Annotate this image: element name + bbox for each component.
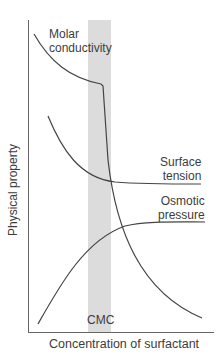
molar-conductivity-label: Molar conductivity xyxy=(49,27,112,55)
label-line: pressure xyxy=(158,208,205,222)
label-line: tension xyxy=(160,169,201,183)
label-line: Osmotic xyxy=(158,194,205,208)
cmc-band xyxy=(88,20,111,332)
label-line: Molar xyxy=(49,27,112,41)
label-line: conductivity xyxy=(49,41,112,55)
x-axis-label: Concentration of surfactant xyxy=(49,337,199,351)
surface-tension-label: Surface tension xyxy=(160,155,201,183)
label-line: Surface xyxy=(160,155,201,169)
osmotic-pressure-curve xyxy=(38,222,205,324)
cmc-label: CMC xyxy=(87,313,114,327)
y-axis-label: Physical property xyxy=(6,144,20,236)
osmotic-pressure-label: Osmotic pressure xyxy=(158,194,205,222)
